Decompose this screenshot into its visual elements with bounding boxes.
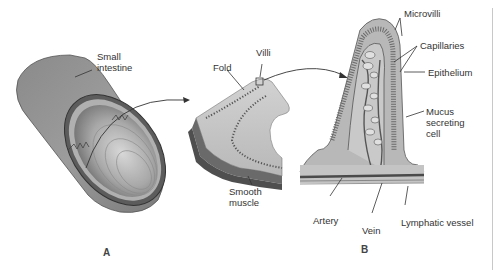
label-fold: Fold [213,62,231,73]
label-small-intestine: Small intestine [97,51,132,73]
villus-cross-section [300,19,424,184]
label-epithelium: Epithelium [428,67,472,78]
label-vein: Vein [362,225,381,236]
label-microvilli: Microvilli [404,8,440,19]
label-smooth-muscle: Smooth muscle [229,186,262,208]
intestinal-wall-fold [188,78,289,190]
label-villi: Villi [256,47,271,58]
page-edge-divider [492,8,493,270]
panel-label-a: A [103,247,110,258]
small-intestine-tube [17,55,187,225]
label-artery: Artery [313,215,338,226]
label-lymphatic-vessel: Lymphatic vessel [401,217,474,228]
panel-label-b: B [361,244,368,255]
label-mucus-secreting-cell: Mucus secreting cell [426,106,465,139]
label-capillaries: Capillaries [420,40,464,51]
